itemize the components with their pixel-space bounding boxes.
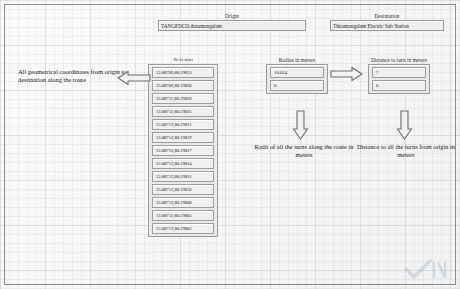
coordinates-header: Next start [148,57,218,62]
radius-value-list[interactable]: 10.014 0 [266,64,328,94]
coordinates-list[interactable]: 13.08709,80.19853 13.08709,80.19830 13.0… [148,64,218,237]
origin-label: Origin [158,13,306,20]
list-item[interactable]: 13.08712,80.19812 [152,171,214,182]
arrow-down-icon [292,110,309,140]
radius-value-0[interactable]: 10.014 [270,67,324,78]
list-item[interactable]: 13.08712,80.19821 [152,119,214,130]
list-item[interactable]: 13.08712,80.19825 [152,106,214,117]
distance-value-1[interactable]: 0 [372,80,426,91]
destination-field-group: Destination Thirumangalam Electric Sub S… [330,13,444,31]
radius-annotation: Radii of all the turns along the route i… [252,143,356,160]
distance-panel: Distance to turn in meters 7 0 [368,57,430,94]
list-item[interactable]: 13.08712,80.19819 [152,132,214,143]
screenshot-canvas: Origin TANGEDCO,thirumangalam Destinatio… [0,0,460,289]
list-item[interactable]: 13.08712,80.19808 [152,197,214,208]
list-item[interactable]: 13.08712,80.19814 [152,158,214,169]
radius-panel: Radius in meters 10.014 0 [266,57,328,94]
arrow-down-icon [396,110,413,140]
list-item[interactable]: 13.08712,80.19802 [152,223,214,234]
arrow-right-icon [330,66,363,82]
distance-label: Distance to turn in meters [368,57,430,64]
origin-input[interactable]: TANGEDCO,thirumangalam [158,20,306,31]
list-item[interactable]: 13.08712,80.19810 [152,184,214,195]
coordinates-annotation: All geometrical coordinates from origin … [18,68,130,85]
list-item[interactable]: 13.08709,80.19830 [152,80,214,91]
checkmark-watermark [404,258,450,282]
list-item[interactable]: 13.08712,80.19817 [152,145,214,156]
distance-annotation: Distance to all the turns from origin in… [356,143,456,160]
coordinates-panel: Next start 13.08709,80.19853 13.08709,80… [148,57,218,237]
list-item[interactable]: 13.08712,80.19805 [152,210,214,221]
destination-input[interactable]: Thirumangalam Electric Sub Station [330,20,444,31]
list-item[interactable]: 13.08711,80.19828 [152,93,214,104]
destination-label: Destination [330,13,444,20]
arrow-left-icon [117,70,151,86]
radius-label: Radius in meters [266,57,328,64]
origin-field-group: Origin TANGEDCO,thirumangalam [158,13,306,31]
distance-value-0[interactable]: 7 [372,67,426,78]
radius-value-1[interactable]: 0 [270,80,324,91]
distance-value-list[interactable]: 7 0 [368,64,430,94]
list-item[interactable]: 13.08709,80.19853 [152,67,214,78]
